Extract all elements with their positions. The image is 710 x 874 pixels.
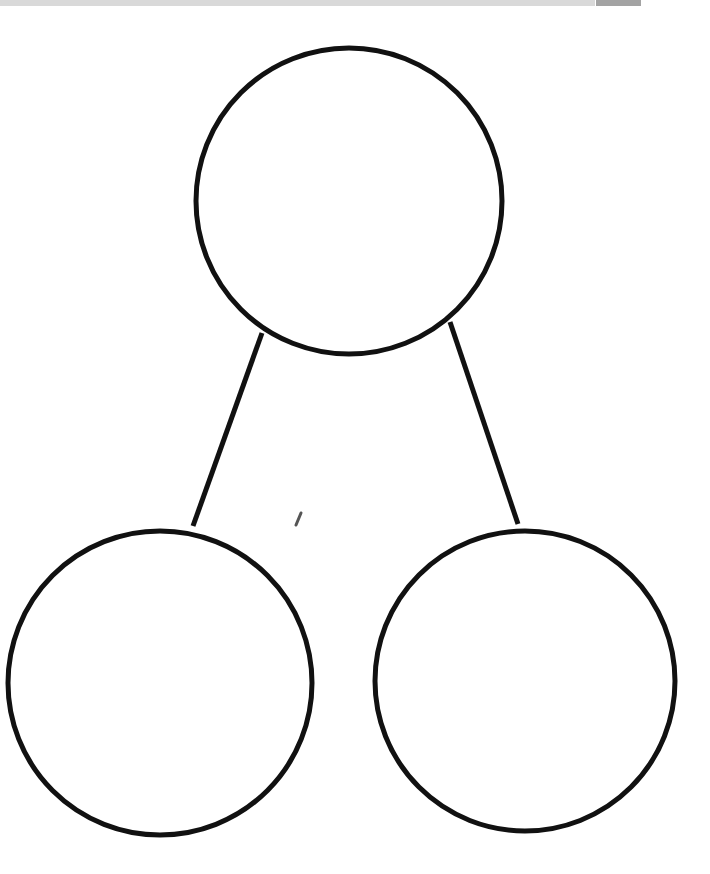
circle-part-right (375, 531, 675, 831)
pencil-mark (296, 513, 301, 525)
bond-circles (8, 48, 675, 835)
connector-part-right (450, 322, 518, 524)
circle-whole (196, 48, 502, 354)
circle-part-left (8, 531, 312, 835)
number-bond-diagram (0, 0, 710, 874)
connector-part-left (193, 333, 262, 526)
